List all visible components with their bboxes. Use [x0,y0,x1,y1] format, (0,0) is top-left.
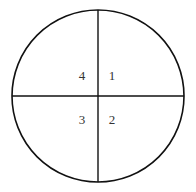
quadrant-label-1: 1 [109,68,116,83]
quadrant-label-4: 4 [79,68,86,83]
quadrant-label-2: 2 [109,112,116,127]
quadrant-diagram: 1 2 3 4 [0,0,196,192]
quadrant-label-3: 3 [79,112,86,127]
